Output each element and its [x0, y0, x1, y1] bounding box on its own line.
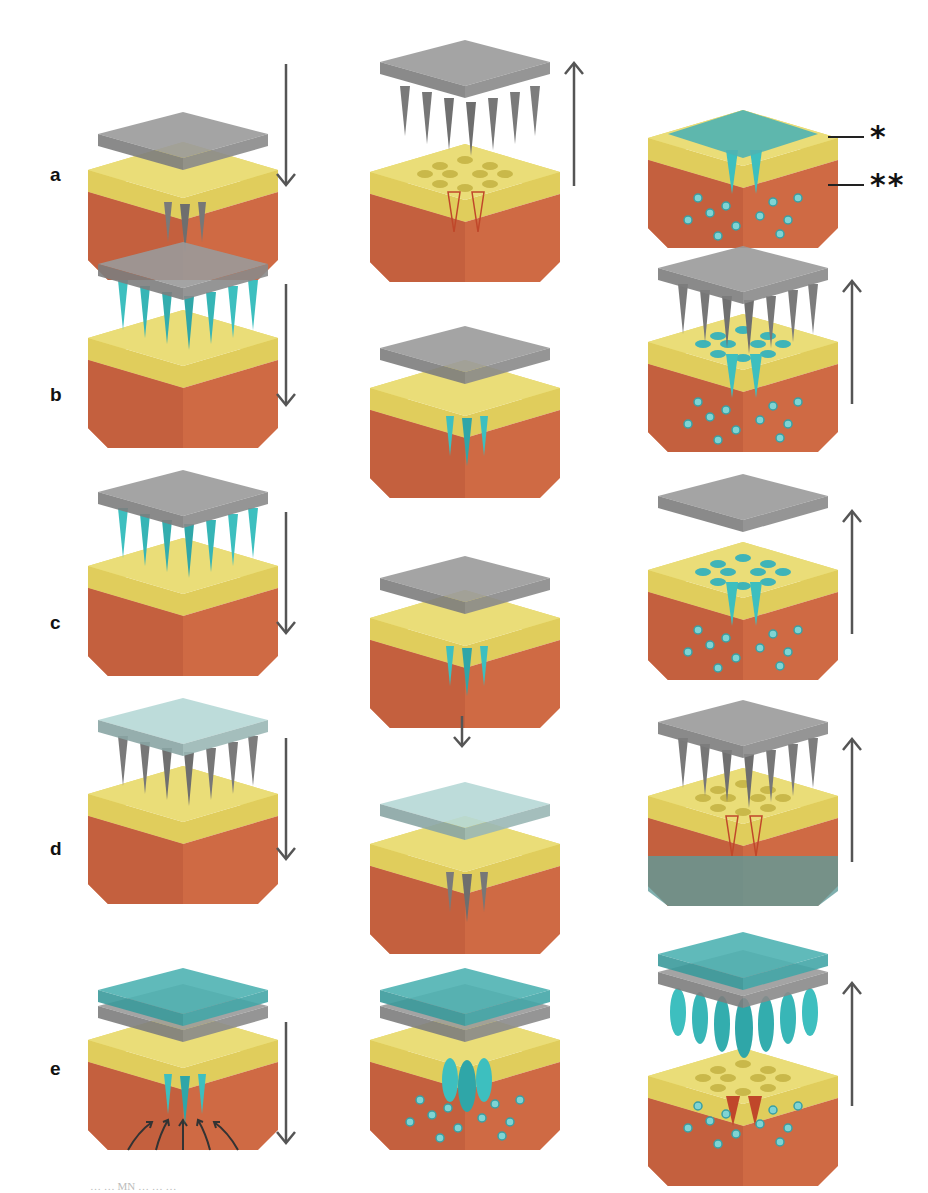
arrow-up-icon [840, 510, 864, 634]
arrow-down-icon [274, 1022, 298, 1146]
arrow-up-icon [562, 62, 586, 186]
panel-e3 [648, 932, 838, 1132]
panel-e1 [88, 970, 278, 1170]
arrow-up-icon [840, 280, 864, 404]
arrow-down-icon [274, 284, 298, 408]
callout-stratum-corneum: * [828, 122, 888, 152]
callout-line [828, 136, 864, 138]
arrow-up-icon [840, 738, 864, 862]
row-label-e: e [50, 1058, 61, 1080]
row-label-d: d [50, 838, 62, 860]
callout-dermis: ** [828, 170, 905, 200]
panel-b3 [648, 246, 838, 446]
arrow-down-icon [274, 512, 298, 636]
callout-mark-double: ** [870, 170, 905, 200]
arrow-up-icon [840, 982, 864, 1106]
panel-c2 [370, 530, 560, 730]
panel-c1 [88, 470, 278, 670]
panel-a2 [370, 40, 560, 240]
row-label-c: c [50, 612, 61, 634]
panel-c3 [648, 474, 838, 674]
arrow-down-icon [274, 64, 298, 188]
panel-d3 [648, 700, 838, 900]
row-label-b: b [50, 384, 62, 406]
arrow-down-icon [274, 738, 298, 862]
panel-b2 [370, 300, 560, 500]
row-label-a: a [50, 164, 61, 186]
callout-mark-single: * [870, 122, 888, 152]
callout-line [828, 184, 864, 186]
panel-e2 [370, 970, 560, 1170]
figure-caption-partial: … … MN … … … [90, 1180, 920, 1192]
panel-d1 [88, 698, 278, 898]
panel-d2 [370, 756, 560, 956]
small-arrow-down-icon [450, 716, 474, 748]
panel-b1 [88, 242, 278, 442]
